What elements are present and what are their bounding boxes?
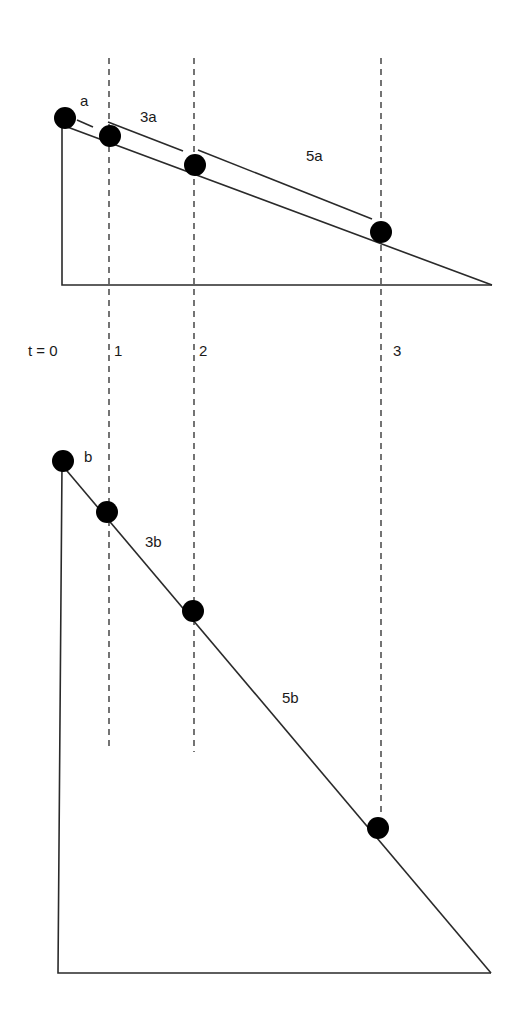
incline-b-slope bbox=[62, 465, 491, 973]
distance-label-b-2: 3b bbox=[145, 533, 162, 550]
ball-b-t1 bbox=[96, 501, 118, 523]
time-label-2: 2 bbox=[199, 342, 207, 359]
time-label-3: 3 bbox=[393, 342, 401, 359]
inclined-plane-diagram: a3a5ab3b5bt = 0123 bbox=[0, 0, 524, 1010]
ball-a-t1 bbox=[99, 125, 121, 147]
labels: a3a5ab3b5bt = 0123 bbox=[28, 92, 401, 706]
ball-a-t3 bbox=[370, 221, 392, 243]
distance-label-a-2: 3a bbox=[140, 108, 157, 125]
incline-b bbox=[52, 450, 491, 973]
time-guide-lines bbox=[109, 58, 381, 816]
distance-label-a-3: 5a bbox=[306, 147, 323, 164]
distance-label-b-3: 5b bbox=[282, 689, 299, 706]
time-label-0: t = 0 bbox=[28, 342, 58, 359]
time-label-1: 1 bbox=[114, 342, 122, 359]
ball-a-t2 bbox=[184, 154, 206, 176]
incline-a-slope bbox=[62, 125, 492, 285]
distance-label-a-1: a bbox=[80, 92, 89, 109]
distance-marker-a-1 bbox=[77, 120, 93, 127]
ball-b-t3 bbox=[367, 817, 389, 839]
ball-a-t0 bbox=[54, 107, 76, 129]
incline-a bbox=[54, 107, 492, 285]
ball-b-t2 bbox=[182, 600, 204, 622]
ball-b-t0 bbox=[52, 450, 74, 472]
distance-label-b-1: b bbox=[84, 448, 92, 465]
